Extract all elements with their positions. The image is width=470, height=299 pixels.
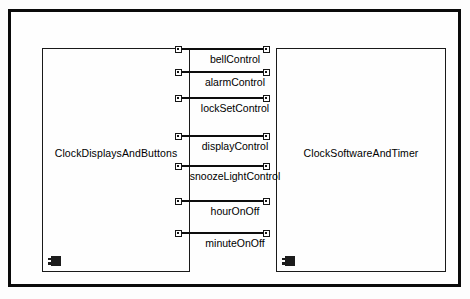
connector-line-lock-set-control[interactable] (178, 97, 266, 99)
port-left-minute-on-off[interactable] (175, 230, 182, 237)
connector-label-lock-set-control: lockSetControl (0, 102, 470, 114)
port-right-alarm-control[interactable] (263, 69, 270, 76)
connector-line-alarm-control[interactable] (178, 71, 266, 73)
connector-line-hour-on-off[interactable] (178, 200, 266, 202)
connector-label-bell-control: bellControl (0, 53, 470, 65)
port-left-lock-set-control[interactable] (175, 95, 182, 102)
uml-component-icon (282, 256, 295, 266)
port-left-snooze-light-control[interactable] (175, 163, 182, 170)
connector-label-snooze-light-control: snoozeLightControl (0, 170, 470, 182)
port-left-alarm-control[interactable] (175, 69, 182, 76)
connector-label-display-control: displayControl (0, 140, 470, 152)
port-right-snooze-light-control[interactable] (263, 163, 270, 170)
port-right-bell-control[interactable] (263, 46, 270, 53)
connector-label-hour-on-off: hourOnOff (0, 205, 470, 217)
port-right-lock-set-control[interactable] (263, 95, 270, 102)
connector-label-alarm-control: alarmControl (0, 76, 470, 88)
uml-component-icon (48, 256, 61, 266)
port-right-hour-on-off[interactable] (263, 198, 270, 205)
connector-label-minute-on-off: minuteOnOff (0, 237, 470, 249)
connector-line-display-control[interactable] (178, 135, 266, 137)
diagram-canvas: ClockDisplaysAndButtons ClockSoftwareAnd… (0, 0, 470, 299)
port-right-minute-on-off[interactable] (263, 230, 270, 237)
port-left-display-control[interactable] (175, 133, 182, 140)
port-left-bell-control[interactable] (175, 46, 182, 53)
port-right-display-control[interactable] (263, 133, 270, 140)
connector-line-minute-on-off[interactable] (178, 232, 266, 234)
connector-line-bell-control[interactable] (178, 48, 266, 50)
port-left-hour-on-off[interactable] (175, 198, 182, 205)
connector-line-snooze-light-control[interactable] (178, 165, 266, 167)
